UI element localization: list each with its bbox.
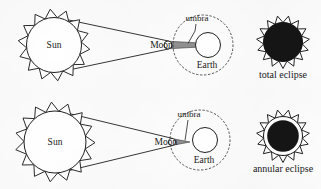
sun-annular: Sun xyxy=(16,102,95,182)
earth-disk xyxy=(196,33,221,58)
moon-label: Moon xyxy=(150,40,173,50)
earth-annular: Earth xyxy=(193,128,218,165)
moon-label: Moon xyxy=(155,137,178,147)
sun-total: Sun xyxy=(18,9,89,81)
eclipse-dark-disk xyxy=(264,23,302,61)
earth-label: Earth xyxy=(197,60,218,70)
sun-label: Sun xyxy=(47,40,62,50)
total-eclipse-caption: total eclipse xyxy=(259,69,308,80)
moon-annular: Moon xyxy=(155,137,178,147)
annular-eclipse-caption: annular eclipse xyxy=(253,163,314,174)
moon-total: Moon xyxy=(150,40,173,50)
eclipse-dark-disk xyxy=(267,120,299,152)
row-annular-eclipse: Sun Moon Earth umbra annular eclipse xyxy=(16,102,314,182)
umbra-leader-line xyxy=(188,24,196,44)
total-eclipse-icon xyxy=(257,16,310,68)
eclipse-diagram: Sun Moon Earth umbra total eclipse xyxy=(0,0,321,189)
annular-eclipse-icon xyxy=(257,110,310,162)
sun-label: Sun xyxy=(48,137,63,147)
earth-label: Earth xyxy=(194,155,215,165)
diagram-canvas: Sun Moon Earth umbra total eclipse xyxy=(0,0,321,189)
row-total-eclipse: Sun Moon Earth umbra total eclipse xyxy=(18,9,309,81)
earth-total: Earth xyxy=(196,33,221,70)
umbra-label: umbra xyxy=(186,13,209,23)
earth-disk xyxy=(193,128,218,153)
umbra-label: umbra xyxy=(178,109,201,119)
umbra-leader-line xyxy=(185,120,188,141)
